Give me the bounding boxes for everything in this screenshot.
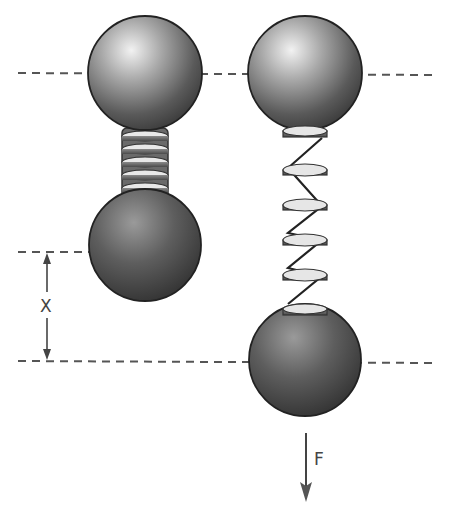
force-label: F: [314, 449, 324, 469]
spring-mass-diagram: X F: [0, 0, 449, 517]
bottom-attach-disc: [283, 304, 327, 315]
reference-lines: [18, 73, 432, 363]
left-top-ball: [88, 16, 202, 130]
top-rest-line: [18, 73, 432, 75]
arrow-down-icon: [43, 349, 51, 360]
stretched-spring-discs: [283, 126, 327, 281]
arrow-up-icon: [43, 253, 51, 264]
right-bottom-ball: [249, 304, 361, 416]
force-indicator: [300, 433, 312, 502]
left-compressed-assembly: [88, 16, 202, 301]
displacement-label: X: [40, 296, 52, 316]
displacement-end-line: [18, 361, 432, 363]
right-stretched-assembly: [248, 16, 362, 416]
right-top-ball: [248, 16, 362, 130]
left-bottom-ball: [89, 189, 201, 301]
